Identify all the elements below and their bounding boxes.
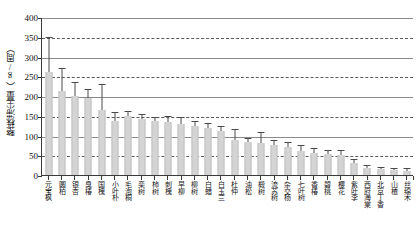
bar-item[interactable] <box>228 18 241 175</box>
bar[interactable] <box>58 91 65 175</box>
error-bar <box>314 149 315 153</box>
x-tick-mark <box>313 176 314 180</box>
bar-item[interactable] <box>348 18 361 175</box>
x-tick-mark <box>300 176 301 180</box>
bar-item[interactable] <box>148 18 161 175</box>
x-tick-mark <box>141 176 142 180</box>
bar[interactable] <box>125 116 132 175</box>
x-axis-tick-label: 早柳 <box>177 181 184 194</box>
bar[interactable] <box>284 147 291 175</box>
y-axis-tick-label: 100 <box>25 132 39 141</box>
error-bar-cap <box>205 123 212 124</box>
y-axis-tick-label: 50 <box>29 152 38 161</box>
bar[interactable] <box>271 145 278 175</box>
bar-item[interactable] <box>175 18 188 175</box>
bar[interactable] <box>298 151 305 175</box>
bar[interactable] <box>231 140 238 175</box>
x-axis-tick-label: 杜仲 <box>230 181 237 194</box>
y-axis-tick-labels: 050100150200250300350400 <box>18 18 40 176</box>
bar-item[interactable] <box>42 18 55 175</box>
y-axis-title: 整株滞尘量（g/周） <box>0 0 20 180</box>
bar-item[interactable] <box>281 18 294 175</box>
bar-item[interactable] <box>55 18 68 175</box>
x-tick-mark <box>101 176 102 180</box>
bar[interactable] <box>165 122 172 175</box>
x-axis-tick-label: 紫叶李 <box>350 181 357 201</box>
bar-item[interactable] <box>122 18 135 175</box>
bar-item[interactable] <box>108 18 121 175</box>
x-axis-tick-label: 北京丁香 <box>376 181 383 208</box>
bar[interactable] <box>311 153 318 175</box>
bar-item[interactable] <box>69 18 82 175</box>
bar[interactable] <box>218 131 225 175</box>
bar[interactable] <box>404 171 411 175</box>
x-tick-mark <box>393 176 394 180</box>
bar[interactable] <box>205 128 212 175</box>
y-axis-tick-label: 150 <box>25 112 39 121</box>
error-bar <box>154 118 155 121</box>
error-bar <box>380 168 381 170</box>
bar-item[interactable] <box>188 18 201 175</box>
bar[interactable] <box>258 143 265 175</box>
bar-item[interactable] <box>215 18 228 175</box>
x-axis-tick-label: 圆柏 <box>57 181 64 194</box>
bar-item[interactable] <box>201 18 214 175</box>
x-tick-mark <box>234 176 235 180</box>
error-bar <box>208 124 209 128</box>
bar[interactable] <box>191 126 198 175</box>
bar-item[interactable] <box>387 18 400 175</box>
bar-item[interactable] <box>82 18 95 175</box>
bar-item[interactable] <box>308 18 321 175</box>
x-axis-tick-label: 香椿 <box>310 181 317 194</box>
error-bar <box>287 143 288 147</box>
bar[interactable] <box>324 154 331 175</box>
error-bar-cap <box>112 112 119 113</box>
bar-item[interactable] <box>294 18 307 175</box>
error-bar-cap <box>45 37 52 38</box>
x-axis-tick-label: 七叶树 <box>296 181 303 201</box>
bar-item[interactable] <box>361 18 374 175</box>
error-bar <box>115 113 116 121</box>
x-axis-tick-label: 元宝枫 <box>44 181 51 201</box>
bar-item[interactable] <box>401 18 414 175</box>
bar[interactable] <box>391 170 398 175</box>
bar[interactable] <box>377 169 384 175</box>
bar-item[interactable] <box>374 18 387 175</box>
bar-item[interactable] <box>255 18 268 175</box>
x-axis-tick-label: 臭椿 <box>84 181 91 194</box>
x-tick-mark <box>247 176 248 180</box>
error-bar <box>247 139 248 143</box>
bar-item[interactable] <box>268 18 281 175</box>
bar-item[interactable] <box>321 18 334 175</box>
y-axis-tick-label: 200 <box>25 93 39 102</box>
bar[interactable] <box>138 119 145 175</box>
bar-item[interactable] <box>162 18 175 175</box>
x-axis-tick-label: 樱花 <box>336 181 343 194</box>
bar[interactable] <box>364 168 371 175</box>
bar-item[interactable] <box>135 18 148 175</box>
bar[interactable] <box>151 121 158 175</box>
bar[interactable] <box>98 110 105 175</box>
bar-item[interactable] <box>334 18 347 175</box>
bar[interactable] <box>72 96 79 175</box>
y-axis-title-text: 整株滞尘量（g/周） <box>5 44 15 136</box>
x-tick-mark <box>154 176 155 180</box>
bar-item[interactable] <box>241 18 254 175</box>
bar[interactable] <box>112 121 119 175</box>
bar[interactable] <box>337 155 344 175</box>
bar[interactable] <box>85 98 92 175</box>
error-bar-cap <box>231 129 238 130</box>
bar[interactable] <box>244 142 251 175</box>
error-bar <box>327 151 328 155</box>
error-bar-cap <box>58 68 65 69</box>
error-bar-cap <box>125 111 132 112</box>
error-bar <box>221 127 222 131</box>
error-bar <box>301 146 302 150</box>
x-axis-tick-label: 柿树 <box>150 181 157 194</box>
bar[interactable] <box>351 163 358 175</box>
error-bar <box>88 90 89 99</box>
x-tick-mark <box>367 176 368 180</box>
bar[interactable] <box>45 72 52 175</box>
bar[interactable] <box>178 124 185 175</box>
bar-item[interactable] <box>95 18 108 175</box>
